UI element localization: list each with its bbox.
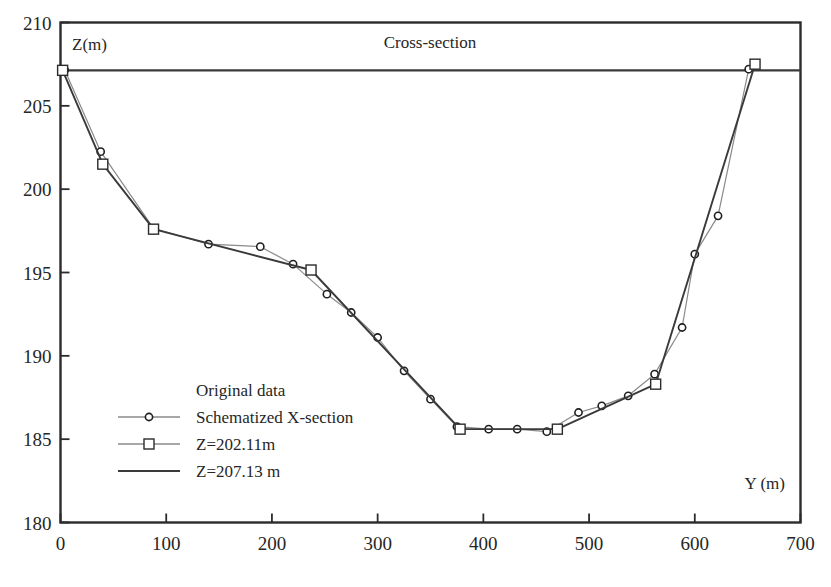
series-original-data bbox=[61, 66, 752, 436]
x-tick-label: 200 bbox=[258, 533, 287, 554]
data-point-circle bbox=[257, 243, 264, 250]
data-point-square bbox=[651, 379, 661, 389]
x-tick-label: 500 bbox=[575, 533, 604, 554]
x-tick-label: 100 bbox=[152, 533, 181, 554]
data-point-square bbox=[306, 265, 316, 275]
legend-label: Z=207.13 m bbox=[196, 462, 280, 481]
legend-item: Original data bbox=[196, 381, 286, 400]
y-axis-tick-labels: 180185190195200205210 bbox=[23, 13, 52, 534]
legend-label: Z=202.11m bbox=[196, 435, 275, 454]
series-line bbox=[65, 69, 749, 432]
cross-section-figure: 180185190195200205210 010020030040050060… bbox=[0, 0, 831, 587]
y-tick-label: 205 bbox=[23, 96, 52, 117]
data-point-square bbox=[58, 65, 68, 75]
legend-item: Schematized X-section bbox=[118, 408, 354, 427]
cross-section-chart: 180185190195200205210 010020030040050060… bbox=[0, 0, 831, 587]
data-point-square bbox=[149, 224, 159, 234]
legend-label: Original data bbox=[196, 381, 286, 400]
legend-item: Z=202.11m bbox=[118, 435, 275, 454]
chart-legend: Original dataSchematized X-sectionZ=202.… bbox=[118, 381, 354, 481]
y-tick-label: 195 bbox=[23, 263, 52, 284]
legend-label: Schematized X-section bbox=[196, 408, 354, 427]
data-point-square bbox=[98, 159, 108, 169]
data-point-circle bbox=[679, 324, 686, 331]
chart-title: Cross-section bbox=[384, 33, 477, 52]
data-point-square bbox=[750, 59, 760, 69]
legend-marker-square bbox=[144, 439, 154, 449]
legend-marker-circle bbox=[145, 413, 152, 420]
legend-item: Z=207.13 m bbox=[118, 462, 280, 481]
data-point-circle bbox=[323, 291, 330, 298]
x-tick-label: 700 bbox=[786, 533, 815, 554]
x-axis-tick-labels: 0100200300400500600700 bbox=[56, 533, 815, 554]
y-tick-label: 210 bbox=[23, 13, 52, 34]
x-axis-ticks bbox=[61, 514, 801, 523]
data-point-circle bbox=[575, 409, 582, 416]
y-axis-ticks bbox=[61, 23, 70, 523]
data-point-square bbox=[552, 424, 562, 434]
x-tick-label: 600 bbox=[681, 533, 710, 554]
x-tick-label: 400 bbox=[469, 533, 498, 554]
data-point-square bbox=[455, 424, 465, 434]
x-tick-label: 300 bbox=[363, 533, 392, 554]
y-axis-title: Z(m) bbox=[72, 35, 107, 54]
x-tick-label: 0 bbox=[56, 533, 66, 554]
y-tick-label: 185 bbox=[23, 429, 52, 450]
y-tick-label: 180 bbox=[23, 513, 52, 534]
data-point-circle bbox=[714, 212, 721, 219]
x-axis-title: Y (m) bbox=[745, 474, 785, 493]
y-tick-label: 200 bbox=[23, 179, 52, 200]
y-tick-label: 190 bbox=[23, 346, 52, 367]
